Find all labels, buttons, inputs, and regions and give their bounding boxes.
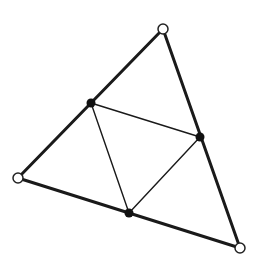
vertex-markers [13, 24, 245, 253]
midpoint-dot-icon [196, 133, 205, 142]
vertex-circle-icon [158, 24, 168, 34]
edge-M_AB-M_AC [91, 103, 200, 137]
midpoint-dot-icon [125, 209, 134, 218]
vertex-circle-icon [13, 173, 23, 183]
medial-triangle-edges [91, 103, 200, 213]
edge-M_BC-M_AB [91, 103, 129, 213]
vertex-circle-icon [235, 243, 245, 253]
triangle-diagram [0, 0, 261, 270]
edge-M_AC-M_BC [129, 137, 200, 213]
midpoint-markers [87, 99, 205, 218]
midpoint-dot-icon [87, 99, 96, 108]
